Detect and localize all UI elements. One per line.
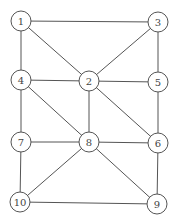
- edge-10-9: [20, 202, 157, 204]
- node-4: 4: [11, 70, 31, 90]
- node-3: 3: [148, 12, 168, 32]
- node-label: 10: [14, 197, 27, 208]
- graph-diagram: 13425786109: [0, 0, 173, 221]
- node-label: 4: [18, 75, 24, 86]
- node-5: 5: [148, 72, 168, 92]
- edge-8-9: [89, 142, 157, 204]
- node-1: 1: [11, 11, 31, 31]
- node-label: 5: [155, 77, 161, 88]
- node-label: 2: [86, 76, 92, 87]
- node-2: 2: [79, 71, 99, 91]
- node-label: 6: [155, 138, 161, 149]
- node-9: 9: [147, 194, 167, 214]
- node-8: 8: [79, 132, 99, 152]
- graph-edges: [20, 21, 158, 204]
- edge-3-2: [89, 22, 158, 81]
- edge-8-10: [20, 142, 89, 202]
- node-label: 3: [155, 17, 161, 28]
- edge-1-2: [21, 21, 89, 81]
- node-label: 7: [18, 137, 24, 148]
- edge-1-3: [21, 21, 158, 22]
- edge-4-8: [21, 80, 89, 142]
- node-6: 6: [148, 133, 168, 153]
- edge-2-6: [89, 81, 158, 143]
- node-label: 8: [86, 137, 92, 148]
- node-label: 1: [18, 16, 24, 27]
- node-10: 10: [10, 192, 30, 212]
- node-label: 9: [154, 199, 160, 210]
- node-7: 7: [11, 132, 31, 152]
